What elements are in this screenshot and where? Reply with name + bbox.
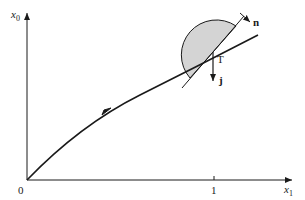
x-axis-label: x1 <box>283 183 293 198</box>
point-t-label: T <box>217 53 224 65</box>
normal-label: n <box>253 16 259 28</box>
normal-vector <box>240 13 250 22</box>
origin-label: 0 <box>18 184 24 196</box>
x-tick-label: 1 <box>211 184 217 196</box>
j-label: j <box>218 74 223 86</box>
y-axis-label: x0 <box>10 8 20 23</box>
diagram-canvas: x0 x1 0 1 T n j <box>0 0 305 200</box>
